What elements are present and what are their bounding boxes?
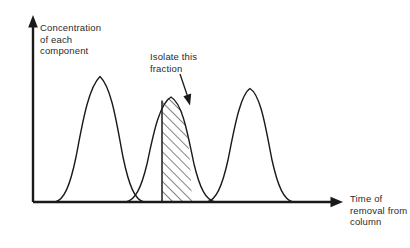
- y-axis-arrowhead: [28, 15, 38, 28]
- annotation-arrow: [180, 74, 191, 106]
- y-axis: [28, 15, 38, 202]
- x-axis-arrowhead: [331, 197, 344, 207]
- x-axis-label: Time of removal from column: [350, 193, 407, 228]
- curve-component-3: [207, 89, 293, 203]
- y-axis-label: Concentration of each component: [40, 22, 101, 57]
- isolate-fraction-annotation: Isolate this fraction: [150, 51, 197, 74]
- annotation-arrowhead: [183, 94, 191, 106]
- curve-component-1: [55, 77, 144, 203]
- chromatogram-figure: Concentration of each component Time of …: [0, 0, 410, 248]
